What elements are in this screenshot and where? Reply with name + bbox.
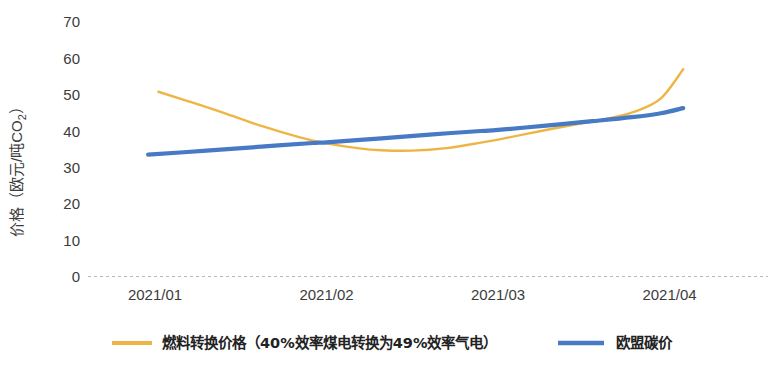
y-tick-label: 70 (63, 13, 80, 30)
chart-legend: 燃料转换价格（40%效率煤电转换为49%效率气电）欧盟碳价 (112, 334, 673, 351)
x-tick-label: 2021/03 (471, 286, 525, 303)
y-axis-ticks: 010203040506070 (63, 13, 80, 285)
x-axis-ticks: 2021/012021/022021/032021/04 (128, 286, 697, 303)
y-axis-title-tail: ） (8, 99, 25, 114)
y-tick-label: 50 (63, 86, 80, 103)
y-tick-label: 20 (63, 195, 80, 212)
series-group (148, 69, 683, 154)
y-tick-label: 10 (63, 232, 80, 249)
y-tick-label: 30 (63, 159, 80, 176)
y-tick-label: 0 (72, 268, 80, 285)
y-tick-label: 40 (63, 123, 80, 140)
legend-label-eu-carbon: 欧盟碳价 (616, 334, 673, 351)
y-axis-title-main: 价格（欧元/吨CO (8, 120, 25, 237)
x-tick-label: 2021/02 (299, 286, 353, 303)
svg-text:价格（欧元/吨CO2）: 价格（欧元/吨CO2） (8, 99, 28, 237)
legend-label-fuel-switch: 燃料转换价格（40%效率煤电转换为49%效率气电） (162, 334, 497, 351)
line-chart: 价格（欧元/吨CO2） 010203040506070 2021/012021/… (0, 0, 772, 376)
series-line-fuel-switch (158, 69, 683, 151)
chart-container: 价格（欧元/吨CO2） 010203040506070 2021/012021/… (0, 0, 772, 376)
x-tick-label: 2021/01 (128, 286, 182, 303)
y-axis-title: 价格（欧元/吨CO2） (8, 99, 28, 237)
y-tick-label: 60 (63, 50, 80, 67)
x-tick-label: 2021/04 (642, 286, 696, 303)
